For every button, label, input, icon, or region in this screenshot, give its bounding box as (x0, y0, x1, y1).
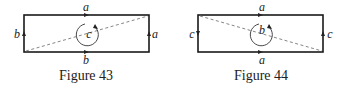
figure-43: a b b a c Figure 43 (14, 0, 158, 83)
figures-canvas: a b b a c Figure 43 a a c c b Figure 44 (0, 0, 348, 89)
arrow-left-icon (22, 31, 26, 36)
label-center: c (86, 27, 92, 41)
label-right: c (327, 27, 333, 41)
label-bottom: a (259, 53, 265, 67)
rotation-arrow-icon (267, 24, 272, 29)
arrow-right-icon (321, 31, 325, 36)
label-center: b (259, 23, 265, 37)
arrow-left-icon (196, 31, 200, 36)
label-bottom: b (83, 53, 89, 67)
label-top: a (259, 0, 265, 14)
label-left: c (189, 27, 195, 41)
figure-44: a a c c b Figure 44 (189, 0, 333, 83)
label-left: b (14, 27, 20, 41)
figure-caption: Figure 44 (234, 68, 288, 83)
label-top: a (83, 0, 89, 14)
figure-caption: Figure 43 (59, 68, 113, 83)
rotation-arrow-icon (93, 24, 98, 29)
label-right: a (152, 27, 158, 41)
arrow-right-icon (147, 31, 151, 36)
